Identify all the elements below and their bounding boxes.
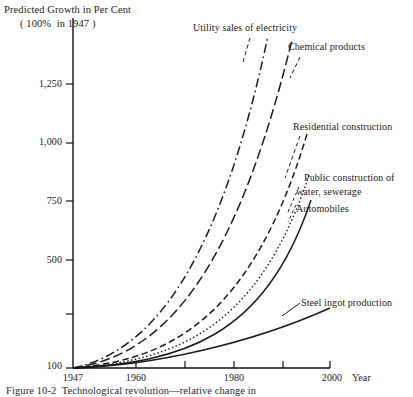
series-label-utility-sales-of-electricity: Utility sales of electricity bbox=[193, 22, 297, 34]
series-label-residential-construction: Residential construction bbox=[293, 121, 392, 133]
x-tick-label-1947: 1947 bbox=[50, 372, 96, 384]
figure-caption: Figure 10-2 Technological revolution—rel… bbox=[6, 385, 256, 397]
series-curve-public-construction-water-sewerage bbox=[73, 175, 309, 368]
series-curve-residential-construction bbox=[73, 134, 307, 368]
series-label-public-construction-line1: Public construction of bbox=[304, 172, 395, 184]
series-label-automobiles: Automobiles bbox=[296, 203, 349, 215]
series-label-steel-ingot-production: Steel ingot production bbox=[301, 297, 392, 309]
series-curve-automobiles bbox=[73, 200, 311, 368]
label-leader-lines bbox=[243, 38, 300, 316]
series-curve-utility-sales-of-electricity bbox=[73, 36, 268, 368]
x-tick-label-1960: 1960 bbox=[113, 372, 159, 384]
x-tick-label-1980: 1980 bbox=[211, 372, 257, 384]
y-tick-label-100: 100 bbox=[20, 360, 62, 372]
y-tick-label-500: 500 bbox=[20, 254, 62, 266]
series-label-chemical-products: Chemical products bbox=[288, 41, 365, 53]
series-curve-steel-ingot-production bbox=[73, 308, 330, 368]
series-curve-chemical-products bbox=[73, 40, 292, 368]
chart-axis-title-line2: ( 100% in 1947 ) bbox=[20, 18, 95, 30]
y-tick-label-1000: 1,000 bbox=[20, 136, 62, 148]
x-tick-label-2000: 2000 bbox=[309, 372, 355, 384]
y-tick-label-1250: 1,250 bbox=[20, 78, 62, 90]
x-axis-ticks bbox=[136, 361, 330, 368]
chart-axis-title-line1: Predicted Growth in Per Cent bbox=[4, 4, 131, 16]
x-axis-label: Year bbox=[352, 372, 371, 384]
y-axis-ticks bbox=[66, 84, 73, 368]
series-label-public-construction-line2: water, sewerage bbox=[296, 186, 362, 198]
y-tick-label-750: 750 bbox=[20, 195, 62, 207]
